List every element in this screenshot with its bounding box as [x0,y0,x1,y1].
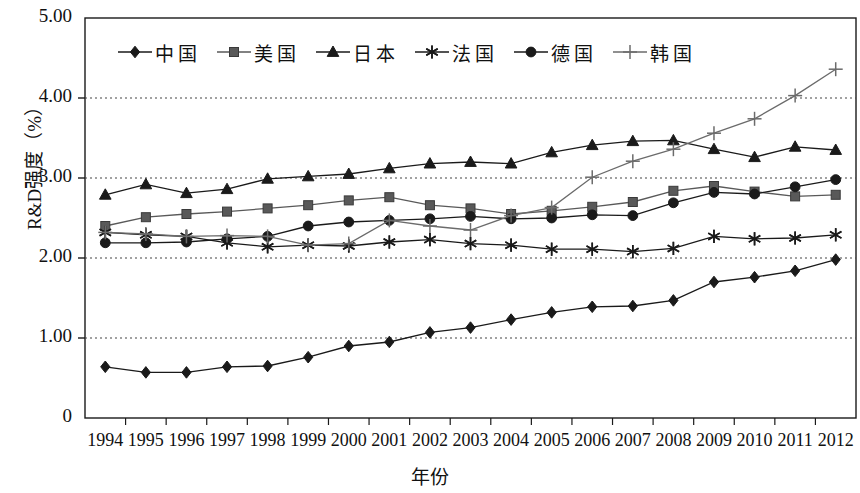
chart-canvas [0,0,860,493]
x-axis-title: 年份 [0,462,860,489]
y-tick-label: 0 [0,405,72,427]
legend-item-德国[interactable]: 德国 [551,39,597,66]
legend-item-法国[interactable]: 法国 [452,39,498,66]
y-tick-label: 5.00 [0,5,72,27]
chart-figure: R&D强度（%） 年份 01.002.003.004.005.00 199419… [0,0,860,493]
legend-item-韩国[interactable]: 韩国 [650,39,696,66]
legend-item-中国[interactable]: 中国 [155,39,201,66]
y-tick-label: 4.00 [0,85,72,107]
legend-item-美国[interactable]: 美国 [254,39,300,66]
y-tick-label: 2.00 [0,245,72,267]
x-tick-label: 2012 [810,430,860,451]
y-tick-label: 1.00 [0,325,72,347]
legend-item-日本[interactable]: 日本 [353,39,399,66]
y-tick-label: 3.00 [0,165,72,187]
